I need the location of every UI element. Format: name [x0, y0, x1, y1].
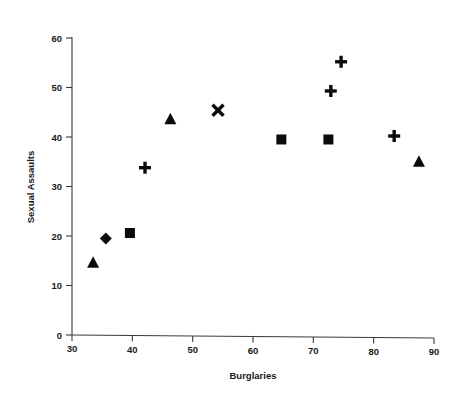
- x-tick-label: 90: [429, 346, 440, 357]
- y-tick-label: 40: [51, 132, 62, 143]
- scatter-chart-figure: 010203040506030405060708090 Burglaries S…: [0, 0, 464, 395]
- y-tick-label: 20: [51, 231, 62, 242]
- x-tick-label: 40: [127, 344, 138, 355]
- data-point-square: [323, 134, 333, 144]
- data-point-plus: [325, 85, 337, 97]
- x-axis-title: Burglaries: [230, 370, 277, 381]
- data-point-plus: [139, 162, 151, 174]
- data-point-square: [125, 228, 135, 238]
- data-point-square: [276, 134, 286, 144]
- data-point-plus: [388, 130, 400, 142]
- y-tick-label: 0: [57, 330, 62, 341]
- x-tick-label: 50: [187, 344, 198, 355]
- triangle-marker: [164, 113, 176, 125]
- data-point-triangle: [413, 155, 425, 167]
- plot-area: 010203040506030405060708090 Burglaries S…: [0, 0, 464, 395]
- data-point-plus: [335, 56, 347, 68]
- y-axis-title: Sexual Assaults: [25, 151, 36, 224]
- data-markers: [87, 56, 425, 268]
- tick-labels: 010203040506030405060708090: [51, 33, 439, 358]
- square-marker: [276, 134, 286, 144]
- y-tick-label: 10: [51, 280, 62, 291]
- axes: [72, 37, 434, 338]
- x-tick-label: 70: [308, 345, 319, 356]
- y-tick-label: 50: [51, 82, 62, 93]
- data-point-diamond: [100, 232, 112, 244]
- data-point-triangle: [87, 256, 99, 268]
- square-marker: [323, 134, 333, 144]
- y-tick-label: 30: [51, 181, 62, 192]
- x-tick-label: 30: [67, 343, 78, 354]
- diamond-marker: [100, 232, 112, 244]
- triangle-marker: [87, 256, 99, 268]
- square-marker: [125, 228, 135, 238]
- data-point-cross: [213, 105, 224, 116]
- tick-marks: [66, 38, 434, 344]
- data-point-triangle: [164, 113, 176, 125]
- y-tick-label: 60: [51, 33, 62, 44]
- x-tick-label: 80: [368, 346, 379, 357]
- triangle-marker: [413, 155, 425, 167]
- x-tick-label: 60: [248, 345, 259, 356]
